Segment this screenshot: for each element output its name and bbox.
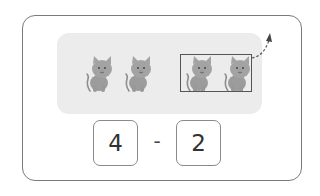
minus-sign: -	[150, 129, 164, 153]
subtrahend-box[interactable]: 2	[176, 120, 221, 166]
minuend-box[interactable]: 4	[93, 120, 138, 166]
dashed-arrow-icon	[248, 30, 278, 64]
removed-group-box	[180, 54, 252, 92]
cat-icon-2	[122, 55, 154, 93]
cat-icon-1	[83, 55, 115, 93]
